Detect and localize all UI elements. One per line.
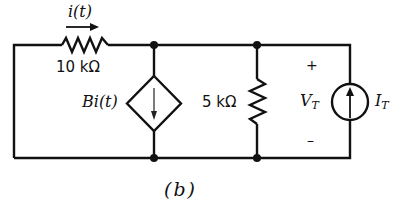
node-top-2	[253, 41, 261, 49]
current-label: i(t)	[68, 4, 92, 20]
dependent-source-label: Bi(t)	[82, 94, 118, 110]
test-voltage-label: VT	[300, 93, 319, 111]
figure-caption: (b)	[164, 180, 197, 199]
voltage-subscript: T	[312, 99, 319, 112]
node-bottom-1	[150, 154, 158, 162]
resistor-5k	[250, 79, 265, 124]
resistor-2-value: 5 kΩ	[202, 95, 236, 110]
plus-sign: +	[306, 58, 318, 72]
node-bottom-2	[253, 154, 261, 162]
resistor-10k	[62, 38, 108, 52]
current-subscript: T	[381, 99, 388, 112]
node-top-1	[150, 41, 158, 49]
dependent-source-diamond	[127, 76, 181, 131]
resistor-1-value: 10 kΩ	[56, 60, 100, 75]
test-current-source	[332, 84, 368, 120]
minus-sign: –	[307, 133, 314, 147]
current-arrow-icon	[66, 23, 99, 31]
test-current-label: IT	[375, 93, 389, 111]
voltage-symbol: V	[300, 91, 312, 110]
